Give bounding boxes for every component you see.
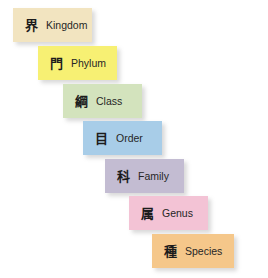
rank-label-class: Class xyxy=(96,96,122,107)
rank-kanji-family: 科 xyxy=(116,170,131,183)
rank-label-phylum: Phylum xyxy=(71,58,106,69)
rank-kanji-class: 綱 xyxy=(74,95,89,108)
rank-kanji-genus: 属 xyxy=(140,207,155,220)
rank-card-order: 目Order xyxy=(83,121,162,155)
rank-kanji-kingdom: 界 xyxy=(24,19,39,32)
rank-label-kingdom: Kingdom xyxy=(46,20,87,31)
rank-card-family: 科Family xyxy=(105,159,184,193)
rank-label-genus: Genus xyxy=(162,208,193,219)
rank-label-species: Species xyxy=(185,246,222,257)
rank-card-phylum: 門Phylum xyxy=(38,46,117,80)
rank-card-genus: 属Genus xyxy=(129,196,208,230)
rank-card-kingdom: 界Kingdom xyxy=(13,8,92,42)
rank-kanji-species: 種 xyxy=(163,245,178,258)
rank-kanji-order: 目 xyxy=(94,132,109,145)
rank-label-family: Family xyxy=(138,171,169,182)
rank-kanji-phylum: 門 xyxy=(49,57,64,70)
rank-card-species: 種Species xyxy=(152,234,234,268)
rank-card-class: 綱Class xyxy=(63,84,142,118)
taxonomy-staircase-diagram: 界Kingdom門Phylum綱Class目Order科Family属Genus… xyxy=(0,0,268,278)
rank-label-order: Order xyxy=(116,133,143,144)
